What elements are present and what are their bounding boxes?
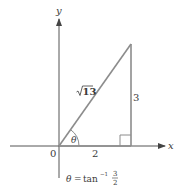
- hypotenuse-label: 13: [77, 86, 97, 97]
- hypotenuse-radicand: 13: [83, 86, 97, 97]
- formula-function: tan: [83, 174, 98, 184]
- adjacent-label: 2: [92, 148, 98, 159]
- origin-label: 0: [50, 148, 56, 159]
- formula-theta: θ: [66, 174, 72, 184]
- triangle-diagram: y x 0 2 3 θ 13 θ = tan −1 3 2: [0, 0, 176, 191]
- angle-label: θ: [71, 135, 77, 145]
- formula-denominator: 2: [113, 179, 117, 187]
- y-axis-label: y: [55, 5, 62, 16]
- formula-equals: =: [74, 174, 82, 184]
- formula-numerator: 3: [113, 170, 117, 178]
- opposite-label: 3: [133, 92, 139, 103]
- right-angle-marker: [120, 135, 131, 146]
- formula-exponent: −1: [100, 171, 108, 177]
- angle-formula: θ = tan −1 3 2: [66, 170, 118, 187]
- x-axis-label: x: [168, 140, 174, 151]
